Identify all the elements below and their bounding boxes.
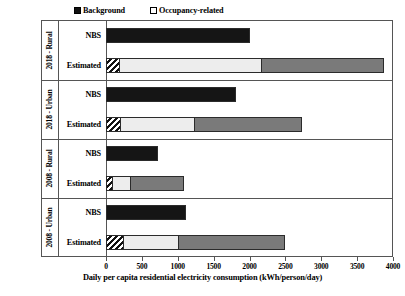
bar-nbs [106,28,250,43]
x-axis-tick [106,257,107,261]
bar-segment-light [124,235,179,250]
bar-segment-black [106,205,186,220]
legend-swatch-background-icon [74,7,81,14]
bar-segment-dark [262,58,384,73]
group-label-text: 2008 - Rural [45,149,54,187]
bar-nbs [106,205,186,220]
bar-segment-black [106,87,236,102]
bar-segment-hatch [106,176,113,191]
bar-segment-hatch [106,235,124,250]
x-axis-tick-label: 1500 [206,262,220,271]
group-label-text: 2018 - Rural [45,31,54,69]
group-label-2008-rural: 2008 - Rural [41,139,58,198]
x-axis-tick [178,257,179,261]
chart-figure: Background Occupancy-related 2018 - Rura… [0,0,405,296]
bar-nbs [106,146,158,161]
x-axis-tick-label: 3500 [350,262,364,271]
x-axis-tick-label: 500 [136,262,147,271]
x-axis-title: Daily per capita residential electricity… [0,273,405,282]
x-axis-tick-label: 2000 [242,262,256,271]
bar-estimated [106,176,184,191]
bar-segment-light [120,58,262,73]
x-axis-tick [285,257,286,261]
series-label-nbs: NBS [58,21,104,51]
group-label-text: 2018 - Urban [45,89,54,129]
x-axis-tick [142,257,143,261]
bar-segment-black [106,28,250,43]
x-axis-tick [214,257,215,261]
bar-estimated [106,117,302,132]
x-axis: 05001000150020002500300035004000 [0,257,405,258]
x-axis-tick [357,257,358,261]
bar-segment-black [106,146,158,161]
x-axis-tick-label: 0 [104,262,108,271]
bar-segment-light [121,117,195,132]
group-label-2018-urban: 2018 - Urban [41,80,58,139]
group-label-2018-rural: 2018 - Rural [41,21,58,80]
legend-item-occupancy-related: Occupancy-related [150,6,224,15]
legend-swatch-occupancy-related-icon [150,7,157,14]
bar-segment-light [113,176,131,191]
group-label-2008-urban: 2008 - Urban [41,198,58,257]
legend-item-background: Background [74,6,125,15]
x-axis-tick [250,257,251,261]
chart-legend: Background Occupancy-related [0,3,405,17]
bar-segment-hatch [106,58,120,73]
bar-estimated [106,235,285,250]
legend-label-background: Background [83,6,125,15]
series-label-nbs: NBS [58,198,104,228]
x-axis-tick-label: 1000 [171,262,185,271]
legend-label-occupancy-related: Occupancy-related [159,6,224,15]
bar-estimated [106,58,384,73]
series-label-estimated: Estimated [58,110,104,140]
series-label-estimated: Estimated [58,228,104,258]
x-axis-tick-label: 2500 [278,262,292,271]
series-label-estimated: Estimated [58,51,104,81]
bar-segment-dark [131,176,184,191]
bar-nbs [106,87,236,102]
series-label-nbs: NBS [58,139,104,169]
bar-segment-dark [179,235,285,250]
bar-segment-dark [195,117,302,132]
x-axis-tick [393,257,394,261]
x-axis-tick [321,257,322,261]
series-label-nbs: NBS [58,80,104,110]
bar-segment-hatch [106,117,121,132]
series-label-estimated: Estimated [58,169,104,199]
x-axis-tick-label: 4000 [386,262,400,271]
x-axis-tick-label: 3000 [314,262,328,271]
group-label-text: 2008 - Urban [45,207,54,247]
